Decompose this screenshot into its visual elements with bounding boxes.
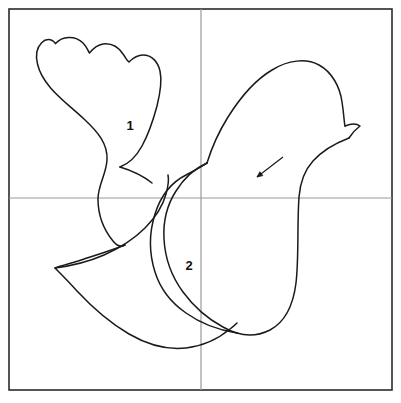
- label-2: 2: [185, 258, 192, 273]
- diagram-canvas: 1 2: [0, 0, 401, 403]
- bird-pattern-figure: 1 2: [0, 0, 401, 403]
- label-1: 1: [126, 118, 133, 133]
